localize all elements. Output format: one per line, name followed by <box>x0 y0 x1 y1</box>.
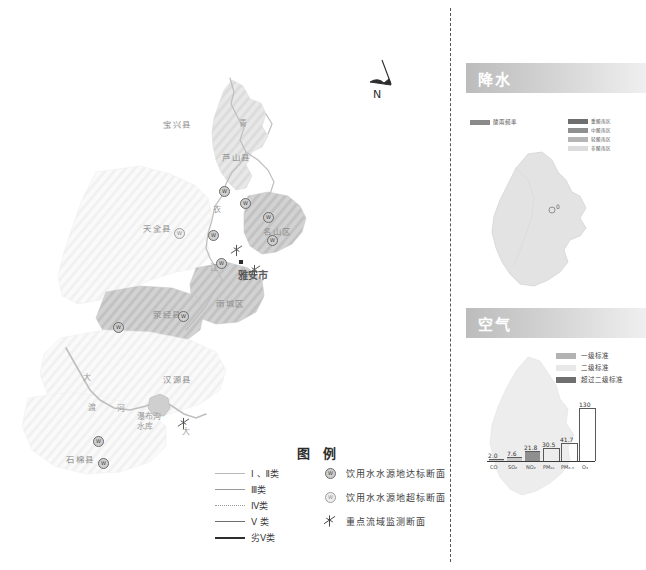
chart-bar-value: 30.5 <box>542 441 555 448</box>
county-label: 石棉县 <box>66 453 95 466</box>
river-label: 渡 <box>88 401 96 412</box>
cross-icon <box>323 514 336 528</box>
legend-label: 重点流域监测断面 <box>346 515 426 528</box>
chart-bar <box>579 408 596 461</box>
legend-line-swatch <box>215 473 245 474</box>
chart-bar-category: NO₂ <box>526 464 536 470</box>
county-label: 名山区 <box>263 225 292 238</box>
station-marker-compliant[interactable]: W <box>263 212 274 223</box>
color-swatch <box>568 137 588 142</box>
legend-row-compliant-section: W 饮用水水源地达标断面 <box>320 467 470 481</box>
right-panel: 降水 酸雨频率 重酸雨区 中酸雨区 轻酸雨区 非酸雨区 0 <box>458 0 645 570</box>
county-label: 芦山县 <box>222 151 251 164</box>
station-marker-exceeding[interactable]: W <box>174 228 185 239</box>
legend-label: Ⅰ 、Ⅱ类 <box>251 467 279 480</box>
legend-label: Ⅲ类 <box>251 483 266 496</box>
air-header-label: 空气 <box>478 313 512 334</box>
chart-bar-category: PM₂.₅ <box>561 464 574 470</box>
chart-bar <box>543 448 560 461</box>
county-label: 宝兴县 <box>163 118 192 131</box>
watershed-cross-icon[interactable] <box>230 244 243 257</box>
legend-label: 劣Ⅴ类 <box>251 531 275 544</box>
station-marker-compliant[interactable]: W <box>98 458 109 469</box>
station-marker-compliant[interactable]: W <box>113 322 124 333</box>
acid-rain-frequency-legend: 酸雨频率 <box>470 118 517 126</box>
legend-line-swatch <box>215 521 245 522</box>
legend-label: 饮用水水源地达标断面 <box>346 467 446 480</box>
air-section-header: 空气 <box>466 308 646 338</box>
color-swatch <box>568 128 588 133</box>
reservoir-label-line2: 水库 <box>137 420 153 431</box>
legend-row-key-watershed-section: 重点流域监测断面 <box>320 515 470 529</box>
color-swatch <box>568 119 588 124</box>
acid-rain-zone-row: 轻酸雨区 <box>568 136 611 142</box>
legend-line-swatch <box>215 489 245 490</box>
chart-bar-category: PM₁₀ <box>543 464 554 470</box>
chart-bar-value: 41.7 <box>560 436 573 443</box>
chart-bar <box>489 459 504 461</box>
river-label: 大 <box>83 371 91 382</box>
station-marker-compliant[interactable]: W <box>93 436 104 447</box>
chart-bar <box>525 451 540 461</box>
chart-bar-value: 130 <box>579 401 590 408</box>
chart-bar-value: 2.0 <box>488 452 498 459</box>
river-label: 衣 <box>213 203 221 214</box>
station-marker-compliant[interactable]: W <box>178 311 189 322</box>
chart-bar-category: SO₂ <box>508 464 517 470</box>
air-pollutant-bar-chart: 2.0 CO 7.6 SO₂ 21.8 NO₂ 30.5 PM₁₀ 41.7 P… <box>487 400 597 470</box>
legend-label: Ⅴ 类 <box>251 515 269 528</box>
station-marker-compliant[interactable]: W <box>216 258 227 269</box>
watershed-cross-icon[interactable] <box>177 417 190 430</box>
north-arrow: N <box>366 58 400 106</box>
chart-bar-value: 7.6 <box>507 450 517 457</box>
river-label: 青 <box>239 117 247 128</box>
circle-dark-icon: W <box>325 468 336 479</box>
chart-baseline <box>487 461 595 462</box>
station-marker-compliant[interactable]: W <box>219 186 230 197</box>
legend-label: 饮用水水源地超标断面 <box>346 491 446 504</box>
north-arrow-label: N <box>373 88 381 101</box>
acid-rain-zone-row: 重酸雨区 <box>568 118 611 124</box>
station-marker-compliant[interactable]: W <box>240 198 251 209</box>
precipitation-section-header: 降水 <box>466 63 646 93</box>
station-marker-compliant[interactable]: W <box>208 230 219 241</box>
color-swatch <box>470 120 490 125</box>
chart-bar <box>561 443 578 461</box>
chart-bar-category: O₃ <box>582 464 588 470</box>
legend-label: Ⅳ类 <box>251 499 268 512</box>
legend-line-swatch <box>215 505 245 506</box>
county-label: 天全县 <box>143 222 172 235</box>
precipitation-map-marker-label: 0 <box>556 203 560 210</box>
panel-divider <box>450 8 451 562</box>
legend: 图 例 Ⅰ 、Ⅱ类 Ⅲ类 Ⅳ类 Ⅴ 类 劣Ⅴ类 W 饮用水水源地达标断面 W <box>215 443 435 553</box>
chart-bar-category: CO <box>490 464 497 470</box>
chart-bar <box>507 457 522 461</box>
legend-line-swatch <box>215 537 245 539</box>
legend-row-exceeding-section: W 饮用水水源地超标断面 <box>320 491 470 505</box>
precipitation-header-label: 降水 <box>478 68 512 89</box>
city-dot <box>239 260 243 264</box>
circle-light-icon: W <box>325 492 336 503</box>
river-label: 河 <box>117 402 125 413</box>
chart-bar-value: 21.8 <box>524 444 537 451</box>
acid-rain-zone-row: 中酸雨区 <box>568 127 611 133</box>
precipitation-map[interactable] <box>476 150 626 295</box>
county-label: 雨城区 <box>216 297 245 310</box>
watershed-cross-icon[interactable] <box>248 264 261 277</box>
county-label: 汉源县 <box>163 373 192 386</box>
legend-title: 图 例 <box>297 443 340 462</box>
station-marker-compliant[interactable]: W <box>267 235 278 246</box>
